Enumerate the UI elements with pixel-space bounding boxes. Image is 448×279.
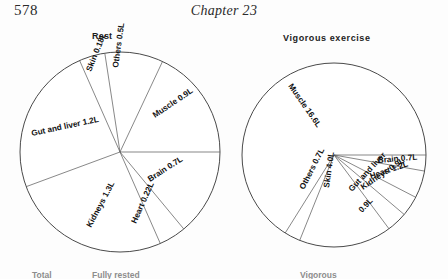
slice-label-ex-muscle: Muscle 16.6L [286, 82, 323, 129]
slice-label-rest-heart: Heart 0.22L [130, 181, 156, 225]
pie-outline-rest [20, 52, 220, 252]
divider-ex-heart-kidneys [334, 155, 416, 197]
slice-label-ex-skin: Skin 4.0L [322, 151, 336, 188]
chart-title-rest: Rest [92, 31, 112, 41]
pie-chart-rest: Muscle 0.9L Others 0.5L Skin 0.18L Gut a… [20, 22, 220, 252]
slice-label-rest-gut-and-liver: Gut and liver 1.2L [31, 115, 100, 138]
divider-rest-gut-kidneys [26, 152, 120, 187]
divider-ex-others-muscle [285, 155, 334, 233]
caption-left-1: Total [32, 270, 52, 279]
slice-label-rest-brain: Brain 0.7L [146, 155, 184, 184]
slice-label-ex-heart: Heart 1.2L [369, 159, 409, 180]
divider-ex-kidneys-gut [334, 155, 404, 215]
divider-ex-brain-heart [334, 155, 425, 171]
pie-outline-vigorous-exercise [242, 63, 426, 247]
textbook-page: 578 Chapter 23 Rest Vigorous exercise Mu… [0, 0, 448, 279]
slice-label-rest-muscle: Muscle 0.9L [151, 86, 195, 119]
slice-label-ex-gut-and-liver-value: 0.9L [357, 196, 375, 214]
slice-label-rest-others: Others 0.5L [111, 22, 126, 68]
divider-ex-skin-others [300, 155, 334, 240]
slice-label-ex-kidneys: Kidneys 0.9L [359, 156, 406, 192]
figure-caption-row: Total Fully rested Vigorous [0, 270, 448, 279]
running-head: Chapter 23 [0, 3, 448, 19]
divider-rest-heart-brain [120, 152, 184, 229]
slice-label-ex-brain: Brain 0.7L [377, 153, 417, 165]
divider-ex-gut-skin [334, 155, 389, 229]
slice-label-rest-kidneys: Kidneys 1.3L [85, 180, 117, 229]
caption-left-2: Fully rested [92, 270, 140, 279]
caption-right-1: Vigorous [300, 270, 337, 279]
divider-rest-others-skin [105, 54, 120, 152]
divider-rest-kidneys-heart [120, 152, 160, 244]
chart-title-vigorous-exercise: Vigorous exercise [283, 33, 371, 43]
pie-charts-figure: Muscle 0.9L Others 0.5L Skin 0.18L Gut a… [0, 0, 448, 279]
divider-rest-skin-gut [80, 61, 120, 153]
slice-label-ex-others: Others 0.7L [298, 147, 326, 191]
slice-label-ex-gut-and-liver: Gut and liver [347, 150, 388, 193]
divider-rest-muscle-others [120, 62, 163, 153]
pie-chart-vigorous-exercise: Muscle 16.6L Brain 0.7L Heart 1.2L Kidne… [242, 63, 426, 247]
